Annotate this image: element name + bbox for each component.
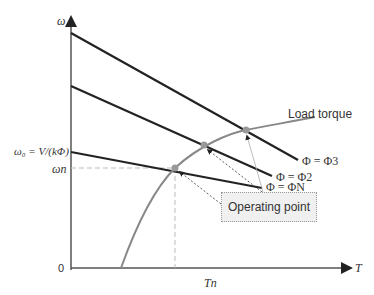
motor-speed-torque-diagram: ω T 0 ω₀ = V/(kΦ) ωn Tn Load torque Φ = … bbox=[0, 0, 374, 295]
operating-point-3 bbox=[243, 127, 250, 134]
tn-label: Tn bbox=[204, 276, 217, 291]
operating-point-N bbox=[172, 165, 179, 172]
line-phi3 bbox=[71, 33, 298, 160]
arrow-to-3 bbox=[247, 136, 263, 192]
y-axis-label: ω bbox=[57, 14, 65, 29]
x-axis-label: T bbox=[355, 261, 362, 276]
arrow-to-2 bbox=[208, 150, 262, 192]
load-torque-label: Load torque bbox=[288, 107, 352, 121]
origin-label: 0 bbox=[58, 262, 64, 274]
omega0-label: ω₀ = V/(kΦ) bbox=[14, 145, 69, 157]
omegan-label: ωn bbox=[52, 162, 66, 177]
operating-point-annotation: Operating point bbox=[221, 192, 317, 222]
phi3-label: Φ = Φ3 bbox=[302, 154, 338, 169]
operating-point-2 bbox=[201, 142, 208, 149]
